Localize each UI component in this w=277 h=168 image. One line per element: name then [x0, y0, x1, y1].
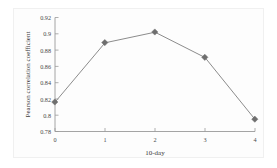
x-tick-label: 4 — [253, 136, 256, 143]
y-tick-label: 0.82 — [40, 96, 51, 103]
y-tick-label: 0.88 — [40, 47, 51, 54]
x-tick-label: 1 — [103, 136, 106, 143]
y-tick-label: 0.8 — [43, 112, 51, 119]
x-tick-label: 3 — [203, 136, 206, 143]
y-tick-label: 0.84 — [40, 79, 51, 86]
x-tick-label: 2 — [153, 136, 156, 143]
y-tick-label: 0.86 — [40, 63, 51, 70]
x-axis-tick-labels: 0 1 2 3 4 — [53, 136, 256, 143]
y-axis-ticks — [55, 18, 59, 132]
y-tick-label: 0.9 — [43, 30, 51, 37]
line-chart: 0.92 0.9 0.88 0.86 0.84 0.82 0.8 0.78 0 … — [0, 0, 277, 168]
data-point-marker[interactable] — [152, 29, 158, 35]
series-line-pearson — [55, 32, 255, 119]
y-axis-tick-labels: 0.92 0.9 0.88 0.86 0.84 0.82 0.8 0.78 — [40, 14, 51, 135]
figure-container: 0.92 0.9 0.88 0.86 0.84 0.82 0.8 0.78 0 … — [0, 0, 277, 168]
y-tick-label: 0.92 — [40, 14, 51, 21]
x-tick-label: 0 — [53, 136, 56, 143]
y-tick-label: 0.78 — [40, 128, 51, 135]
series-markers — [52, 29, 258, 122]
y-axis-title: Pearson correlation coefficient — [24, 32, 32, 118]
x-axis-ticks — [55, 128, 255, 132]
x-axis-title: 10-day — [145, 149, 165, 157]
data-point-marker[interactable] — [102, 39, 108, 45]
